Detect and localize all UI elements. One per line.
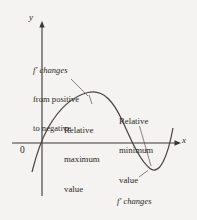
max-value-leader	[89, 95, 92, 104]
fprime-negative-to-positive-callout: f′ changes from negative to positive	[117, 178, 165, 220]
relative-maximum-value-label: Relative maximum value	[64, 106, 100, 214]
relative-maximum-line2: maximum	[64, 155, 100, 165]
fprime-neg-pos-line1: f′ changes	[117, 197, 165, 207]
relative-minimum-line2: minimum	[119, 146, 153, 156]
x-axis-label: x	[182, 135, 186, 145]
relative-minimum-line1: Relative	[119, 117, 153, 127]
relative-maximum-line1: Relative	[64, 126, 100, 136]
fprime-pos-neg-line1: f′ changes	[33, 66, 79, 76]
origin-label: 0	[20, 145, 25, 156]
relative-maximum-line3: value	[64, 185, 100, 195]
y-axis-label: y	[29, 12, 33, 22]
fprime-pos-neg-line2: from positive	[33, 95, 79, 105]
derivative-test-figure: y x 0 f′ changes from positive to negati…	[0, 0, 197, 220]
